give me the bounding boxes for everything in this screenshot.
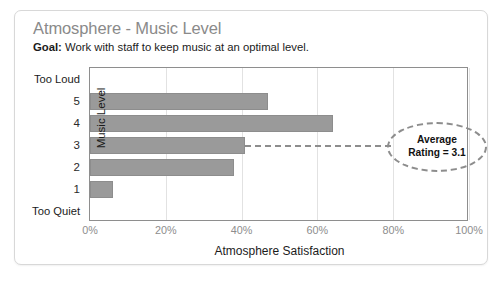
x-axis-tick-label: 100% xyxy=(455,224,483,236)
bar-row xyxy=(90,178,469,200)
y-axis-title: Music Level xyxy=(95,63,107,173)
bar-row xyxy=(90,200,469,222)
x-axis-ticks: 0%20%40%60%80%100% xyxy=(90,224,469,240)
plot-area: Music Level Too Loud54321Too Quiet 0%20%… xyxy=(89,67,468,221)
page-title: Atmosphere - Music Level xyxy=(33,19,221,38)
chart-card: Atmosphere - Music Level Goal: Work with… xyxy=(14,10,488,265)
callout-line-2: Rating = 3.1 xyxy=(408,147,465,160)
bar-row xyxy=(90,68,469,90)
y-axis-tick-label: 1 xyxy=(74,178,80,200)
x-axis-tick-label: 40% xyxy=(231,224,253,236)
y-axis-tick-label: Too Loud xyxy=(34,68,80,90)
x-axis-tick-label: 20% xyxy=(155,224,177,236)
x-axis-tick-label: 80% xyxy=(382,224,404,236)
y-axis-tick-label: Too Quiet xyxy=(32,200,80,222)
bar-row xyxy=(90,90,469,112)
bar xyxy=(90,159,234,176)
callout-line-1: Average xyxy=(417,134,457,147)
average-rating-callout: Average Rating = 3.1 xyxy=(387,122,487,172)
goal-label: Goal: xyxy=(33,41,62,53)
bar xyxy=(90,115,333,132)
chart-goal-text: Goal: Work with staff to keep music at a… xyxy=(33,41,309,53)
y-axis-ticks: Too Loud54321Too Quiet xyxy=(20,68,84,220)
y-axis-tick-label: 3 xyxy=(74,134,80,156)
annotation-leader-line xyxy=(245,145,391,147)
x-axis-title: Atmosphere Satisfaction xyxy=(90,244,469,258)
x-axis-tick-label: 60% xyxy=(307,224,329,236)
y-axis-tick-label: 4 xyxy=(74,112,80,134)
bar xyxy=(90,137,245,154)
bar xyxy=(90,93,268,110)
x-axis-tick-label: 0% xyxy=(82,224,98,236)
y-axis-tick-label: 2 xyxy=(74,156,80,178)
bar xyxy=(90,181,113,198)
goal-description: Work with staff to keep music at an opti… xyxy=(62,41,309,53)
y-axis-tick-label: 5 xyxy=(74,90,80,112)
